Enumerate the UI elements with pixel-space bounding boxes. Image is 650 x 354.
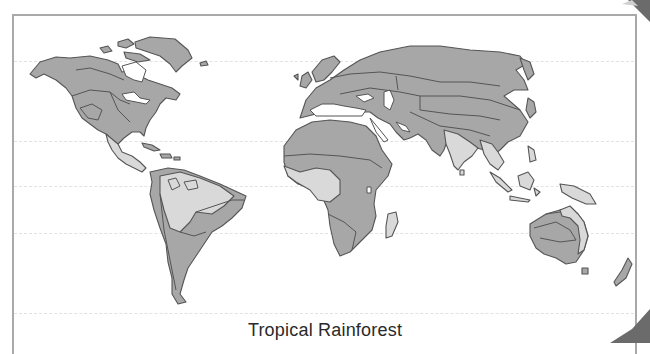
map-caption: Tropical Rainforest xyxy=(0,320,650,341)
tasmania xyxy=(582,268,588,274)
japan xyxy=(526,98,536,118)
lake-victoria xyxy=(367,187,371,193)
new-guinea-rainforest xyxy=(560,184,596,204)
new-zealand xyxy=(614,258,632,286)
central-africa-rainforest xyxy=(284,166,340,202)
indonesia-rainforest xyxy=(490,172,540,202)
greenland xyxy=(135,37,192,72)
madagascar-rainforest xyxy=(386,212,398,238)
sri-lanka xyxy=(460,170,464,175)
kamchatka xyxy=(520,58,534,80)
north-america xyxy=(30,56,180,144)
iceland xyxy=(200,61,208,66)
central-america-rainforest xyxy=(106,134,146,172)
caribbean-islands xyxy=(142,143,180,160)
philippines xyxy=(528,146,536,162)
british-isles xyxy=(294,72,312,88)
